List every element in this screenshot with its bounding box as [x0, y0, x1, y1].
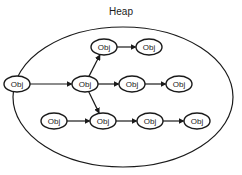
- heap-graph: ObjObjObjObjObjObjObjObjObjObj: [0, 0, 242, 175]
- object-node: Obj: [166, 76, 192, 92]
- object-node-label: Obj: [48, 117, 61, 126]
- object-node: Obj: [4, 76, 30, 92]
- object-node-label: Obj: [143, 43, 156, 52]
- reference-arrow: [89, 55, 100, 76]
- object-node-label: Obj: [97, 117, 110, 126]
- object-node-label: Obj: [98, 43, 111, 52]
- object-node-label: Obj: [11, 80, 24, 89]
- object-node: Obj: [119, 76, 145, 92]
- object-node-label: Obj: [173, 80, 186, 89]
- object-node-label: Obj: [144, 117, 157, 126]
- reference-arrow: [89, 92, 99, 113]
- object-node: Obj: [90, 113, 116, 129]
- object-node: Obj: [137, 113, 163, 129]
- object-node-label: Obj: [126, 80, 139, 89]
- object-node-label: Obj: [191, 117, 204, 126]
- object-node: Obj: [136, 39, 162, 55]
- reference-edges: [30, 47, 184, 121]
- heap-boundary: [13, 27, 233, 167]
- object-node: Obj: [72, 76, 98, 92]
- object-node: Obj: [91, 39, 117, 55]
- object-node: Obj: [41, 113, 67, 129]
- object-node-label: Obj: [79, 80, 92, 89]
- object-node: Obj: [184, 113, 210, 129]
